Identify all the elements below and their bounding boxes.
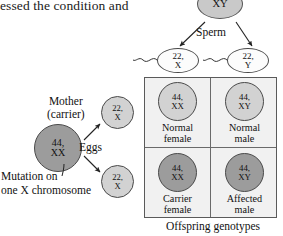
offspring-genotype-normal-male: 44, XY (225, 82, 264, 121)
punnett-square: 44, XX Normal female 44, XY Normal male … (144, 77, 277, 218)
geno-bl-line2: XX (171, 173, 184, 182)
pheno-tl-line1: Normal (162, 122, 193, 133)
pheno-br-line2: male (227, 204, 262, 215)
pheno-br-line1: Affected (227, 193, 262, 204)
offspring-genotype-normal-female: 44, XX (158, 82, 197, 121)
mother-cell: 44, XX (34, 124, 82, 172)
mother-genotype-line2: XX (51, 148, 65, 158)
offspring-phenotype-bottom-right: Affected male (227, 193, 262, 215)
figure-x-linked-inheritance: essed the condition and XY Sperm 22, X 2… (0, 0, 283, 236)
punnett-caption: Offspring genotypes (166, 220, 260, 233)
pheno-tl-line2: female (162, 133, 193, 144)
pheno-bl-line2: female (163, 204, 192, 215)
offspring-phenotype-top-right: Normal male (229, 122, 260, 144)
eggs-label: Eggs (79, 141, 102, 154)
geno-tl-line2: XX (171, 102, 184, 111)
egg-cell-bottom: 22, X (101, 165, 134, 198)
punnett-quadrant-bottom-right: 44, XY Affected male (212, 149, 277, 218)
offspring-phenotype-bottom-left: Carrier female (163, 193, 192, 215)
mother-label-line1: Mother (47, 95, 85, 108)
body-text-fragment: essed the condition and (0, 0, 160, 13)
sperm-y-tail-icon (203, 59, 227, 62)
pheno-bl-line1: Carrier (163, 193, 192, 204)
sperm-label: Sperm (196, 26, 226, 39)
father-genotype: XY (212, 0, 227, 9)
offspring-phenotype-top-left: Normal female (162, 122, 193, 144)
mother-label: Mother (carrier) (47, 95, 85, 120)
offspring-genotype-carrier-female: 44, XX (158, 153, 197, 192)
egg-cell-top: 22, X (101, 96, 134, 129)
punnett-quadrant-top-left: 44, XX Normal female (145, 78, 210, 147)
punnett-quadrant-bottom-left: 44, XX Carrier female (145, 149, 210, 218)
offspring-genotype-affected-male: 44, XY (225, 153, 264, 192)
arrow-father-to-sperm-y (236, 22, 252, 46)
punnett-quadrant-top-right: 44, XY Normal male (212, 78, 277, 147)
pheno-tr-line2: male (229, 133, 260, 144)
mutation-annotation: Mutation on one X chromosome (1, 170, 91, 197)
arrow-mother-to-egg-top (84, 124, 100, 140)
egg-top-line2: X (114, 113, 120, 122)
sperm-y-line2: Y (245, 61, 252, 70)
geno-tr-line2: XY (238, 102, 251, 111)
mother-label-line2: (carrier) (47, 108, 85, 121)
sperm-x-line2: X (175, 61, 182, 70)
egg-bottom-line2: X (114, 182, 120, 191)
sperm-cell-x: 22, X (157, 48, 199, 73)
pheno-tr-line1: Normal (229, 122, 260, 133)
mutation-annotation-line1: Mutation on (1, 170, 91, 184)
father-cell: XY (197, 0, 243, 19)
geno-br-line2: XY (238, 173, 251, 182)
sperm-x-tail-icon (133, 59, 157, 62)
mutation-annotation-line2: one X chromosome (1, 184, 91, 198)
sperm-cell-y: 22, Y (227, 48, 269, 73)
